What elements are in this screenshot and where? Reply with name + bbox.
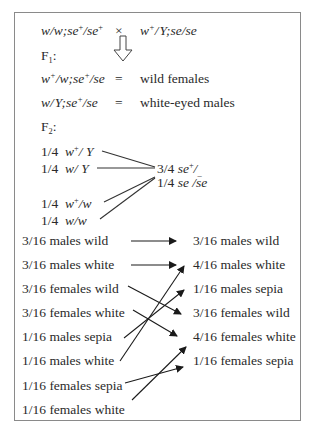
fraction: 3/4 xyxy=(157,161,174,176)
f1-phenotype-male: white-eyed males xyxy=(140,96,235,110)
generation-letter: F xyxy=(41,48,49,63)
allele: /w xyxy=(74,213,87,228)
allele: w xyxy=(140,23,149,38)
allele: / Y xyxy=(79,144,94,159)
right-phenotype: 3/16 females wild xyxy=(193,306,290,320)
fraction: 1/4 xyxy=(41,144,58,159)
colon: : xyxy=(53,48,57,63)
allele: se xyxy=(66,95,77,110)
slash: / xyxy=(155,23,159,38)
allele: w xyxy=(54,23,63,38)
left-phenotype: 3/16 females white xyxy=(22,306,125,320)
right-phenotype: 1/16 females sepia xyxy=(193,354,293,368)
left-phenotype: 1/16 males sepia xyxy=(22,330,112,344)
left-phenotype: 1/16 males white xyxy=(22,354,114,368)
allele: se xyxy=(171,23,182,38)
left-phenotype: 3/16 females wild xyxy=(22,282,119,296)
allele: / Y xyxy=(74,161,89,176)
wildtype-sup: + xyxy=(98,23,103,32)
fraction: 1/4 xyxy=(41,213,58,228)
cross-times-symbol: × xyxy=(115,24,123,38)
left-phenotype: 3/16 males white xyxy=(22,258,114,272)
right-phenotype: 4/16 males white xyxy=(193,258,285,272)
f1-phenotype-female: wild females xyxy=(140,72,209,86)
f2-autosomal-row: 3/4 se+/_ xyxy=(157,162,202,176)
equals-sign: = xyxy=(115,72,123,86)
f2-xlinked-row: 1/4 w/w xyxy=(41,214,87,228)
left-phenotype: 1/16 females sepia xyxy=(22,379,122,393)
fraction: 1/4 xyxy=(41,196,58,211)
allele: /se xyxy=(90,71,105,86)
allele: /w; xyxy=(56,71,73,86)
allele: se xyxy=(73,71,84,86)
allele: w xyxy=(65,144,74,159)
allele: w xyxy=(65,196,74,211)
right-phenotype: 1/16 males sepia xyxy=(193,282,283,296)
allele: se xyxy=(186,23,197,38)
f2-xlinked-row: 1/4 w+/w xyxy=(41,197,92,211)
allele: w xyxy=(65,213,74,228)
allele: se xyxy=(87,23,98,38)
f2-label: F2: xyxy=(41,120,56,134)
left-phenotype: 1/16 females white xyxy=(22,403,125,417)
allele: w/ xyxy=(41,95,54,110)
colon: : xyxy=(53,119,57,134)
f2-autosomal-row: 1/4 se /se xyxy=(157,176,207,190)
allele: w xyxy=(65,161,74,176)
allele: w xyxy=(41,23,50,38)
allele: se /se xyxy=(178,175,208,190)
left-phenotype: 3/16 males wild xyxy=(22,234,108,248)
f1-genotype-male: w/Y;se+/se xyxy=(41,96,98,110)
f1-label: F1: xyxy=(41,49,56,63)
cross-male-genotype: w+/Y;se/se xyxy=(140,24,197,38)
f2-xlinked-row: 1/4 w+/ Y xyxy=(41,145,93,159)
f1-genotype-female: w+/w;se+/se xyxy=(41,72,105,86)
allele: /w xyxy=(79,196,92,211)
allele: se xyxy=(178,161,189,176)
allele: se xyxy=(67,23,78,38)
allele: /se xyxy=(83,95,98,110)
fraction: 1/4 xyxy=(41,161,58,176)
right-phenotype: 3/16 males wild xyxy=(193,234,279,248)
equals-sign: = xyxy=(115,96,123,110)
f2-xlinked-row: 1/4 w/ Y xyxy=(41,162,89,176)
cross-female-genotype: w/w;se+/se+ xyxy=(41,24,103,38)
allele: Y; xyxy=(55,95,66,110)
right-phenotype: 4/16 females white xyxy=(193,330,296,344)
fraction: 1/4 xyxy=(157,175,174,190)
allele: w xyxy=(41,71,50,86)
generation-letter: F xyxy=(41,119,49,134)
